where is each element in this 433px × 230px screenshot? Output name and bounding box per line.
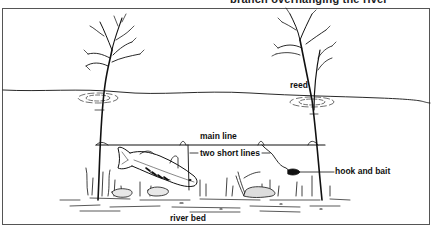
label-reed: reed — [290, 80, 308, 90]
label-hook-and-bait: hook and bait — [335, 166, 390, 176]
hook-bait-icon — [288, 169, 300, 175]
right-reed-icon — [272, 8, 336, 200]
fish-icon — [118, 147, 197, 186]
label-two-short-lines: two short lines — [200, 148, 260, 158]
short-line-2 — [262, 145, 292, 174]
river-bed-lines — [60, 198, 350, 212]
short-line-1 — [188, 145, 189, 190]
water-surface-line — [3, 90, 430, 103]
label-river-bed: river bed — [170, 213, 206, 223]
left-reed-icon — [78, 14, 144, 200]
label-main-line: main line — [200, 131, 237, 141]
fishing-illustration — [0, 0, 433, 230]
